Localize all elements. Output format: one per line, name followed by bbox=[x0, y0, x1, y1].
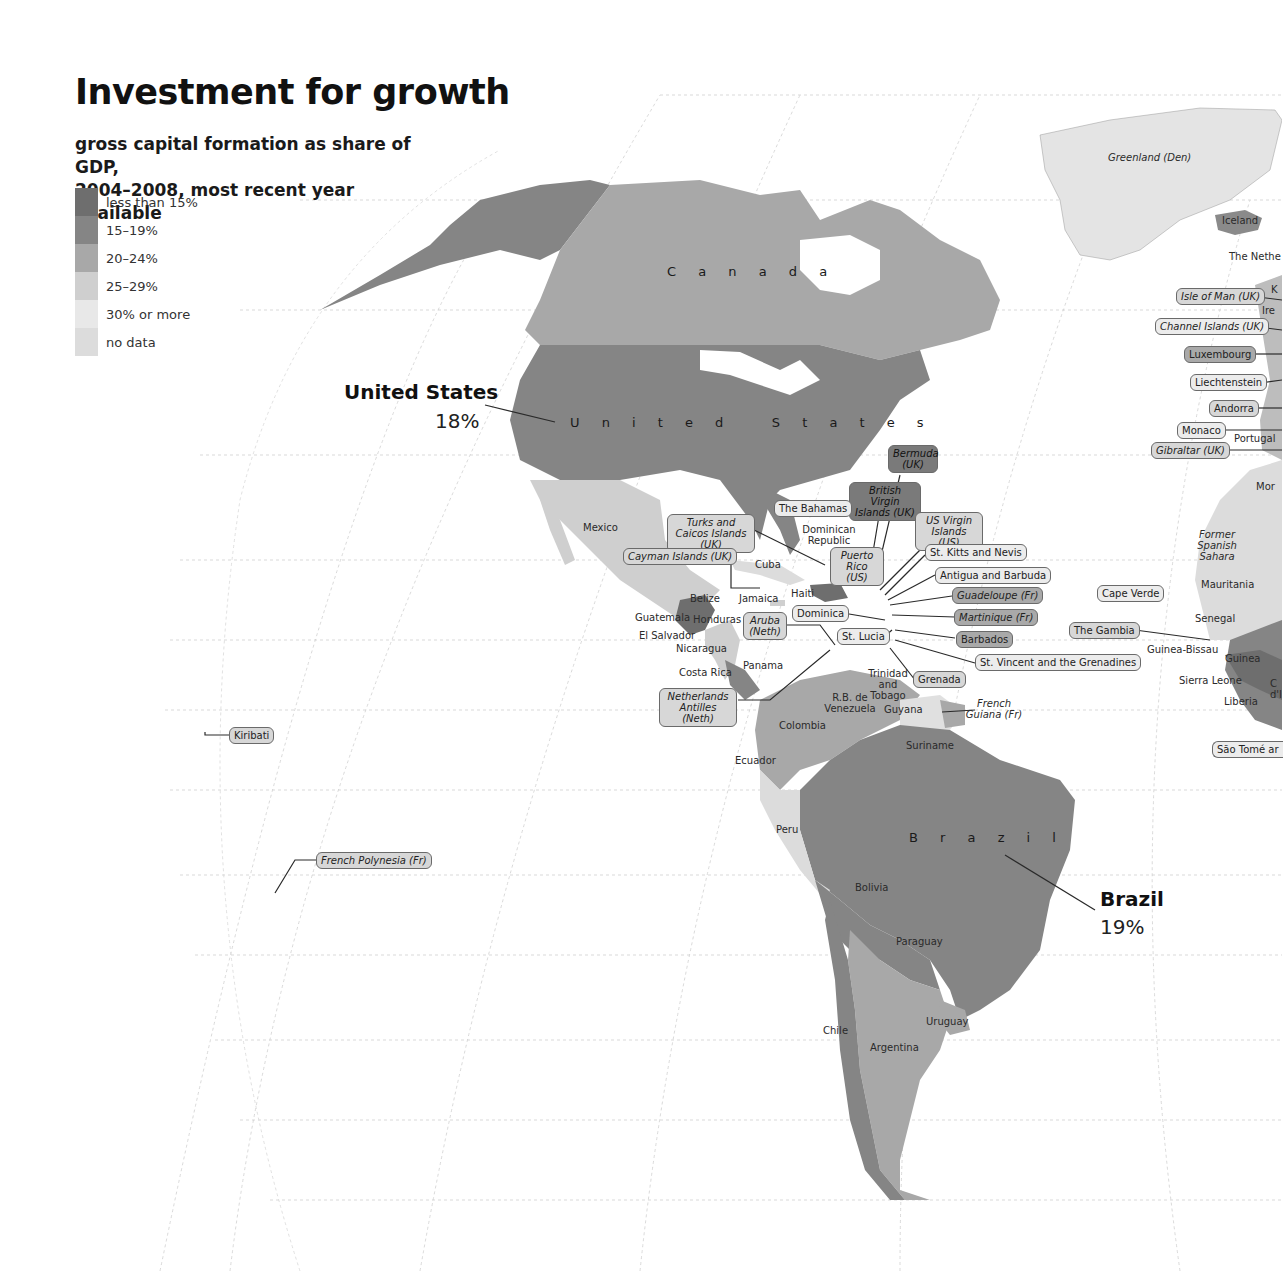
label-dominican-republic: Dominican Republic bbox=[798, 524, 860, 546]
legend-swatch bbox=[75, 272, 98, 300]
label-cote-divoire: C d'I bbox=[1270, 678, 1282, 700]
label-haiti: Haiti bbox=[791, 588, 814, 599]
label-nicaragua: Nicaragua bbox=[676, 643, 727, 654]
legend-item-20-24: 20–24% bbox=[75, 244, 198, 272]
box-kiribati: Kiribati bbox=[229, 727, 274, 744]
box-cayman-islands: Cayman Islands (UK) bbox=[623, 548, 737, 565]
box-martinique: Martinique (Fr) bbox=[954, 609, 1038, 626]
legend-swatch bbox=[75, 244, 98, 272]
label-guatemala: Guatemala bbox=[635, 612, 690, 623]
label-mauritania: Mauritania bbox=[1201, 579, 1254, 590]
label-guinea-bissau: Guinea-Bissau bbox=[1147, 644, 1218, 655]
label-el-salvador: El Salvador bbox=[639, 630, 695, 641]
label-uruguay: Uruguay bbox=[926, 1016, 969, 1027]
box-monaco: Monaco bbox=[1177, 422, 1226, 439]
box-gambia: The Gambia bbox=[1069, 622, 1140, 639]
map-title: Investment for growth bbox=[75, 72, 510, 112]
label-costa-rica: Costa Rica bbox=[679, 667, 732, 678]
legend: less than 15% 15–19% 20–24% 25–29% 30% o… bbox=[75, 188, 198, 356]
label-mexico: Mexico bbox=[583, 522, 618, 533]
legend-item-30plus: 30% or more bbox=[75, 300, 198, 328]
legend-label: 30% or more bbox=[106, 307, 190, 322]
label-former-spanish-sahara: Former Spanish Sahara bbox=[1196, 529, 1238, 562]
label-sierra-leone: Sierra Leone bbox=[1179, 675, 1242, 686]
label-argentina: Argentina bbox=[870, 1042, 919, 1053]
box-guadeloupe: Guadeloupe (Fr) bbox=[952, 587, 1043, 604]
box-bahamas: The Bahamas bbox=[774, 500, 852, 517]
box-aruba: Aruba (Neth) bbox=[743, 612, 787, 640]
greenland-shape bbox=[1040, 108, 1282, 260]
box-st-vincent-grenadines: St. Vincent and the Grenadines bbox=[975, 654, 1141, 671]
label-peru: Peru bbox=[776, 824, 798, 835]
label-ecuador: Ecuador bbox=[735, 755, 776, 766]
label-brazil: B r a z i l bbox=[909, 832, 1065, 843]
box-dominica: Dominica bbox=[792, 605, 849, 622]
label-belize: Belize bbox=[690, 593, 720, 604]
label-k: K bbox=[1271, 284, 1278, 295]
label-canada: C a n a d a bbox=[667, 266, 836, 277]
box-bermuda: Bermuda (UK) bbox=[888, 445, 938, 473]
label-french-guiana: French Guiana (Fr) bbox=[958, 698, 1030, 720]
legend-item-lt15: less than 15% bbox=[75, 188, 198, 216]
box-channel-islands: Channel Islands (UK) bbox=[1155, 318, 1269, 335]
box-barbados: Barbados bbox=[956, 631, 1013, 648]
label-venezuela: R.B. de Venezuela bbox=[822, 692, 878, 714]
label-ireland: Ire bbox=[1262, 305, 1275, 316]
callout-us-name: United States bbox=[344, 380, 498, 404]
label-liberia: Liberia bbox=[1224, 696, 1258, 707]
box-sao-tome: São Tomé ar bbox=[1212, 741, 1283, 758]
legend-label: 25–29% bbox=[106, 279, 158, 294]
box-st-kitts-nevis: St. Kitts and Nevis bbox=[925, 544, 1027, 561]
label-paraguay: Paraguay bbox=[896, 936, 943, 947]
callout-brazil-value: 19% bbox=[1100, 915, 1144, 939]
box-st-lucia: St. Lucia bbox=[837, 628, 890, 645]
label-netherlands: The Nethe bbox=[1229, 251, 1281, 262]
label-senegal: Senegal bbox=[1195, 613, 1235, 624]
box-netherlands-antilles: Netherlands Antilles (Neth) bbox=[659, 688, 737, 727]
label-panama: Panama bbox=[743, 660, 783, 671]
box-french-polynesia: French Polynesia (Fr) bbox=[316, 852, 432, 869]
label-cuba: Cuba bbox=[755, 559, 781, 570]
label-colombia: Colombia bbox=[779, 720, 826, 731]
box-liechtenstein: Liechtenstein bbox=[1190, 374, 1267, 391]
label-jamaica: Jamaica bbox=[739, 593, 778, 604]
subtitle-line-1: gross capital formation as share of GDP, bbox=[75, 133, 435, 179]
label-honduras: Honduras bbox=[693, 614, 741, 625]
box-british-virgin-islands: British Virgin Islands (UK) bbox=[849, 482, 921, 521]
legend-label: 20–24% bbox=[106, 251, 158, 266]
box-puerto-rico: Puerto Rico (US) bbox=[830, 547, 884, 586]
callout-brazil-name: Brazil bbox=[1100, 887, 1164, 911]
box-isle-of-man: Isle of Man (UK) bbox=[1176, 288, 1265, 305]
box-antigua-barbuda: Antigua and Barbuda bbox=[935, 567, 1051, 584]
label-chile: Chile bbox=[823, 1025, 848, 1036]
legend-label: no data bbox=[106, 335, 156, 350]
legend-swatch bbox=[75, 300, 98, 328]
label-greenland: Greenland (Den) bbox=[1108, 152, 1191, 163]
legend-item-25-29: 25–29% bbox=[75, 272, 198, 300]
label-morocco: Mor bbox=[1256, 481, 1275, 492]
box-andorra: Andorra bbox=[1209, 400, 1259, 417]
label-guinea: Guinea bbox=[1225, 653, 1260, 664]
label-united-states: U n i t e d S t a t e s bbox=[570, 417, 933, 428]
callout-us-value: 18% bbox=[435, 409, 479, 433]
box-grenada: Grenada bbox=[913, 671, 966, 688]
legend-label: 15–19% bbox=[106, 223, 158, 238]
label-bolivia: Bolivia bbox=[855, 882, 888, 893]
legend-swatch bbox=[75, 216, 98, 244]
box-luxembourg: Luxembourg bbox=[1184, 346, 1256, 363]
legend-swatch bbox=[75, 328, 98, 356]
label-suriname: Suriname bbox=[906, 740, 954, 751]
legend-item-15-19: 15–19% bbox=[75, 216, 198, 244]
label-portugal: Portugal bbox=[1234, 433, 1275, 444]
legend-label: less than 15% bbox=[106, 195, 198, 210]
label-iceland: Iceland bbox=[1222, 215, 1258, 226]
box-cape-verde: Cape Verde bbox=[1097, 585, 1164, 602]
legend-item-no-data: no data bbox=[75, 328, 198, 356]
box-gibraltar: Gibraltar (UK) bbox=[1151, 442, 1230, 459]
label-guyana: Guyana bbox=[884, 704, 923, 715]
legend-swatch bbox=[75, 188, 98, 216]
